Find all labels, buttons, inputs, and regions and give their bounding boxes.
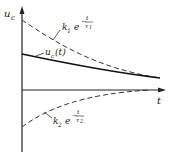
k2-leader: [44, 112, 52, 118]
y-axis-arrow-icon: [20, 6, 25, 14]
svg-text:1: 1: [89, 24, 92, 30]
uc-leader: [36, 53, 44, 56]
y-axis-label-sub: c: [11, 14, 15, 22]
k2-curve-label: k 2 e − t τ 2: [53, 108, 84, 128]
t-axis-arrow-icon: [158, 88, 166, 93]
svg-text:e: e: [65, 116, 70, 126]
svg-text:t: t: [77, 108, 80, 115]
svg-text:2: 2: [57, 121, 62, 128]
svg-text:1: 1: [67, 27, 71, 34]
svg-text:t: t: [86, 14, 89, 21]
svg-text:e: e: [74, 22, 79, 32]
svg-text:(t): (t): [55, 47, 66, 57]
svg-text:2: 2: [79, 118, 83, 124]
y-axis-label: u: [4, 8, 10, 19]
uc-curve-label: u c (t): [45, 47, 66, 59]
t-axis-label: t: [157, 95, 162, 106]
k1-leader: [53, 30, 60, 40]
k2-exp-curve: [22, 90, 150, 127]
exponential-decay-diagram: u c t k 1 e − t τ 1 u c (t) k 2 e − t τ …: [0, 0, 173, 156]
k1-curve-label: k 1 e − t τ 1: [62, 14, 93, 34]
